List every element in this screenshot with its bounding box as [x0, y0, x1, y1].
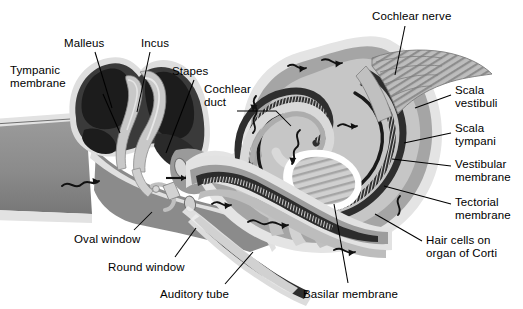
label-oval-window: Oval window: [74, 233, 140, 246]
label-tectorial-membrane: Tectorial membrane: [455, 196, 511, 222]
label-hair-cells-organ-of-corti: Hair cells on organ of Corti: [426, 234, 497, 260]
label-basilar-membrane: Basilar membrane: [303, 288, 398, 301]
label-tympanic-membrane: Tympanic membrane: [10, 64, 66, 90]
label-scala-tympani: Scala tympani: [455, 122, 496, 148]
label-incus: Incus: [141, 37, 169, 50]
label-vestibular-membrane: Vestibular membrane: [455, 158, 511, 184]
label-auditory-tube: Auditory tube: [160, 288, 229, 301]
label-scala-vestibuli: Scala vestibuli: [455, 84, 497, 110]
label-cochlear-nerve: Cochlear nerve: [372, 10, 451, 23]
label-stapes: Stapes: [172, 65, 208, 78]
label-malleus: Malleus: [64, 37, 104, 50]
label-round-window: Round window: [108, 261, 185, 274]
label-cochlear-duct: Cochlear duct: [204, 83, 251, 109]
ear-anatomy-figure: Tympanic membraneMalleusIncusStapesCochl…: [0, 0, 523, 309]
